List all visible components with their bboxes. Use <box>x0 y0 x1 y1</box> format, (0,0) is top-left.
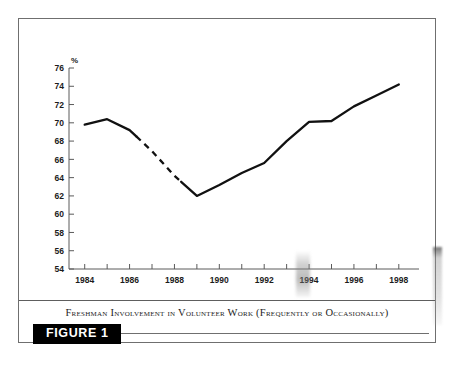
svg-text:64: 64 <box>55 173 65 183</box>
figure-frame: 545658606264666870727476 198419861988199… <box>18 18 436 343</box>
svg-text:1992: 1992 <box>255 275 274 285</box>
y-axis-unit-label: % <box>71 56 78 65</box>
y-axis-tick-labels: 545658606264666870727476 <box>55 63 65 274</box>
svg-text:62: 62 <box>55 191 65 201</box>
data-line-solid-left <box>85 119 137 136</box>
chart-axes <box>69 68 419 269</box>
figure-number-badge: FIGURE 1 <box>33 324 121 344</box>
svg-text:1996: 1996 <box>344 275 363 285</box>
svg-text:66: 66 <box>55 155 65 165</box>
svg-text:1990: 1990 <box>210 275 229 285</box>
svg-text:1986: 1986 <box>120 275 139 285</box>
svg-text:68: 68 <box>55 136 65 146</box>
y-axis-ticks <box>69 68 74 269</box>
svg-text:70: 70 <box>55 118 65 128</box>
svg-text:60: 60 <box>55 209 65 219</box>
svg-text:58: 58 <box>55 228 65 238</box>
svg-text:1984: 1984 <box>75 275 94 285</box>
x-axis-ticks <box>85 264 399 269</box>
line-chart: 545658606264666870727476 198419861988199… <box>19 19 435 299</box>
figure-caption-band: Freshman Involvement in Volunteer Work (… <box>19 300 435 324</box>
svg-text:1988: 1988 <box>165 275 184 285</box>
chart-plot-area: 545658606264666870727476 198419861988199… <box>19 19 435 299</box>
svg-text:74: 74 <box>55 81 65 91</box>
svg-text:76: 76 <box>55 63 65 73</box>
data-line-solid-right <box>181 84 399 195</box>
x-axis-tick-labels: 19841986198819901992199419961998 <box>75 275 408 285</box>
data-line-dashed <box>136 136 181 181</box>
svg-text:56: 56 <box>55 246 65 256</box>
figure-caption: Freshman Involvement in Volunteer Work (… <box>66 307 389 318</box>
svg-text:1998: 1998 <box>389 275 408 285</box>
svg-text:1994: 1994 <box>300 275 319 285</box>
svg-text:54: 54 <box>55 264 65 274</box>
figure-label-row: FIGURE 1 <box>19 324 435 343</box>
svg-text:72: 72 <box>55 100 65 110</box>
